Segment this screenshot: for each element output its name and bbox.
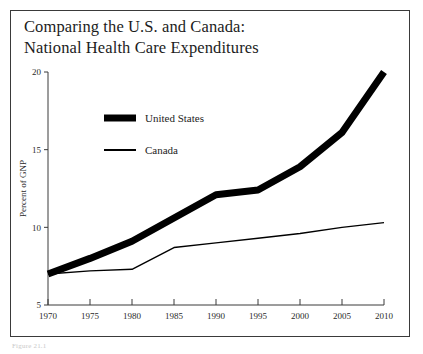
- y-tick-label-15: 15: [32, 145, 42, 155]
- chart-plot: 5101520197019751980198519901995200020052…: [0, 0, 423, 354]
- x-tick-label-1985: 1985: [165, 311, 184, 321]
- legend-label-united-states: United States: [145, 112, 204, 124]
- series-line-canada: [48, 223, 384, 274]
- figure-container: Comparing the U.S. and Canada: National …: [0, 0, 423, 354]
- x-tick-label-1970: 1970: [39, 311, 58, 321]
- x-tick-label-2005: 2005: [333, 311, 352, 321]
- y-tick-label-5: 5: [37, 300, 42, 310]
- x-tick-label-1990: 1990: [207, 311, 226, 321]
- figure-caption: Figure 21.1: [12, 342, 46, 350]
- y-tick-label-10: 10: [32, 223, 42, 233]
- x-tick-label-2010: 2010: [375, 311, 394, 321]
- x-tick-label-1995: 1995: [249, 311, 268, 321]
- y-axis-title: Percent of GNP: [18, 160, 28, 217]
- x-tick-label-1980: 1980: [123, 311, 142, 321]
- x-tick-label-2000: 2000: [291, 311, 310, 321]
- y-tick-label-20: 20: [32, 67, 42, 77]
- legend-label-canada: Canada: [145, 144, 178, 156]
- series-line-united-states: [48, 72, 384, 274]
- x-tick-label-1975: 1975: [81, 311, 100, 321]
